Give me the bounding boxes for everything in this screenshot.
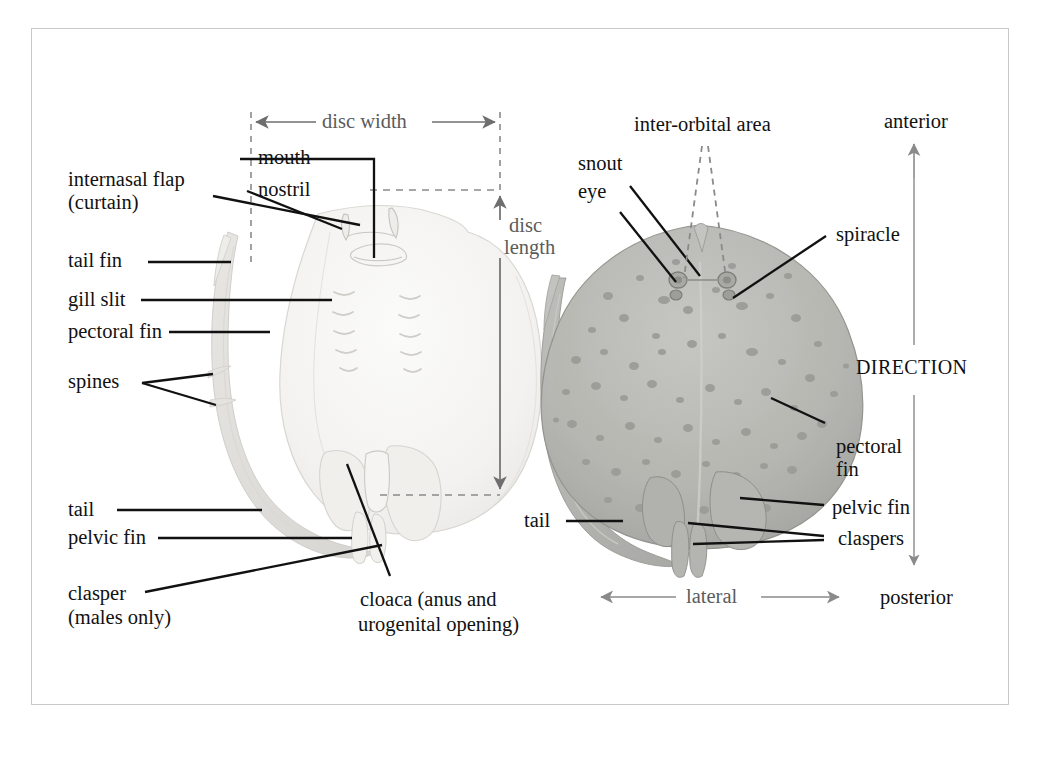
label-spines: spines — [68, 370, 119, 392]
label-internasal-flap-sub: (curtain) — [68, 191, 139, 213]
label-internasal-flap: internasal flap — [68, 168, 185, 190]
label-pectoral-fin-dorsal: pectoral — [836, 435, 902, 457]
spiracle-left — [670, 290, 682, 300]
cloaca-shape — [365, 451, 390, 512]
label-anterior: anterior — [884, 110, 948, 132]
label-disc-length-line2: length — [504, 237, 555, 259]
leader-clasper — [145, 545, 382, 592]
ventral-clasper-right — [370, 514, 386, 563]
label-pectoral-fin-ventral: pectoral fin — [68, 320, 162, 342]
spiracle-right — [723, 290, 735, 300]
label-nostril: nostril — [258, 178, 310, 200]
label-spiracle: spiracle — [836, 223, 900, 245]
label-claspers: claspers — [838, 527, 904, 549]
label-pelvic-fin-dorsal: pelvic fin — [832, 496, 910, 518]
label-disc-width: disc width — [322, 110, 407, 132]
figure-root: disc width disc length internasal flap (… — [0, 0, 1044, 766]
label-pelvic-fin-ventral: pelvic fin — [68, 526, 146, 548]
label-eye: eye — [578, 180, 606, 202]
eye-right-pupil — [723, 277, 731, 284]
dorsal-clasper-right — [690, 524, 707, 578]
label-disc-length-line1: disc — [509, 215, 542, 237]
label-tail-fin: tail fin — [68, 249, 122, 271]
label-lateral: lateral — [686, 585, 737, 607]
label-tail-ventral: tail — [68, 498, 94, 520]
label-tail-dorsal: tail — [524, 509, 550, 531]
label-direction: DIRECTION — [856, 357, 967, 379]
leader-spines-b — [142, 383, 216, 405]
leader-spines-a — [142, 374, 213, 383]
label-clasper-sub: (males only) — [68, 606, 171, 628]
label-gill-slit: gill slit — [68, 288, 126, 310]
label-cloaca-sub: urogenital opening) — [358, 613, 519, 635]
ventral-clasper-left — [352, 512, 368, 564]
label-inter-orbital-area: inter-orbital area — [634, 113, 771, 135]
label-posterior: posterior — [880, 586, 953, 608]
label-clasper: clasper — [68, 582, 126, 604]
label-pectoral-fin-dorsal-sub: fin — [836, 458, 859, 480]
dorsal-clasper-left — [672, 522, 689, 578]
label-mouth: mouth — [258, 146, 310, 168]
label-snout: snout — [578, 152, 622, 174]
label-cloaca: cloaca (anus and — [360, 588, 497, 610]
